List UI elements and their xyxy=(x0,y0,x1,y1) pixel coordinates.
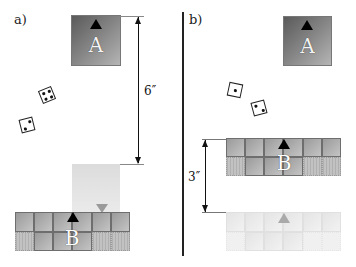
up-arrow-icon xyxy=(301,20,313,30)
dimension-bottom-line xyxy=(120,164,144,165)
dimension-label-6in: 6″ xyxy=(144,84,156,98)
block-b-up-arrow-icon xyxy=(67,212,79,222)
block-b-letter: B xyxy=(264,151,304,175)
arrow-up-icon xyxy=(202,140,208,147)
block-b-letter: B xyxy=(52,226,92,250)
panel-b-label: b) xyxy=(189,12,202,27)
die-two xyxy=(250,99,267,116)
panel-a-label: a) xyxy=(14,12,27,27)
block-a: A xyxy=(283,16,332,66)
die-one xyxy=(227,82,244,99)
arrow-down-icon xyxy=(202,205,208,212)
dimension-line xyxy=(138,17,139,163)
block-a-letter: A xyxy=(284,34,331,58)
arrow-down-icon xyxy=(135,157,141,164)
die-two xyxy=(19,117,36,134)
arrow-up-icon xyxy=(135,17,141,24)
ghost-block-a xyxy=(72,164,120,212)
dimension-bottom-line xyxy=(202,212,226,213)
block-b-up-arrow-icon xyxy=(278,139,290,149)
block-a: A xyxy=(71,15,121,66)
panel-divider xyxy=(182,12,184,256)
ghost-up-arrow-icon xyxy=(278,213,290,223)
dimension-label-3in: 3″ xyxy=(188,170,200,184)
die-four xyxy=(38,86,56,104)
dimension-line xyxy=(205,140,206,212)
block-a-letter: A xyxy=(72,33,120,57)
up-arrow-icon xyxy=(90,19,102,29)
